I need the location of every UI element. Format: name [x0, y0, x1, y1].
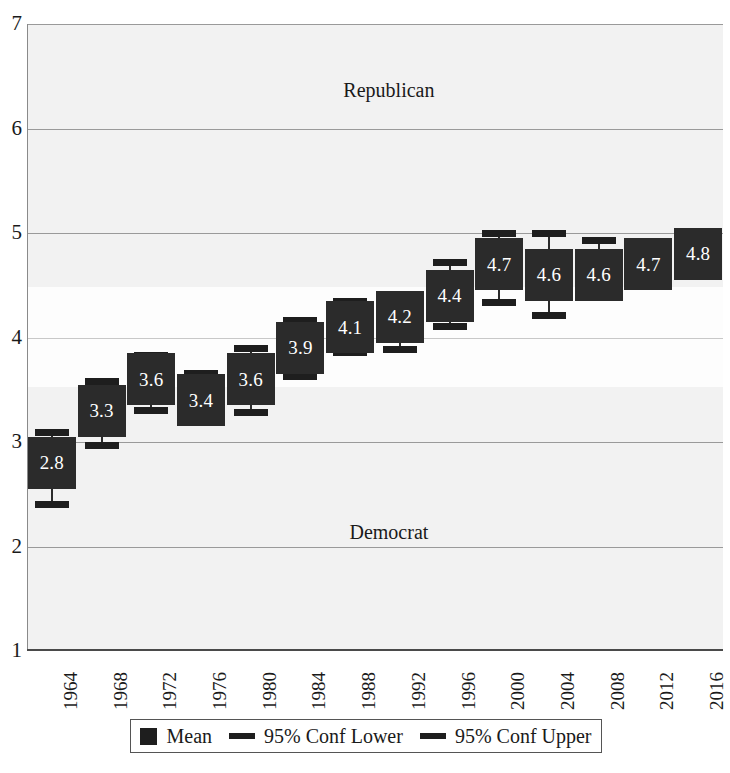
confidence-lower-cap [283, 373, 317, 380]
mean-marker: 3.6 [127, 353, 175, 405]
mean-marker: 3.6 [227, 353, 275, 405]
legend-entry: 95% Conf Lower [229, 726, 403, 746]
confidence-lower-cap [134, 407, 168, 414]
mean-value-label: 3.9 [288, 338, 312, 357]
confidence-lower-cap [234, 409, 268, 416]
mean-marker: 3.3 [78, 385, 126, 437]
mean-marker: 4.4 [426, 270, 474, 322]
x-axis-tick-label: 1976 [210, 672, 229, 710]
mean-value-label: 4.4 [437, 286, 461, 305]
gridline [27, 129, 723, 130]
confidence-lower-cap [532, 312, 566, 319]
confidence-upper-cap [532, 230, 566, 237]
x-axis-tick-label: 1972 [160, 672, 179, 710]
confidence-upper-cap [482, 230, 516, 237]
x-axis-tick-label: 2004 [558, 672, 577, 710]
y-axis-tick-label: 7 [0, 13, 22, 34]
x-axis-tick-label: 2012 [657, 672, 676, 710]
legend-entry: Mean [140, 726, 212, 746]
x-axis-tick-label: 2016 [707, 672, 726, 710]
confidence-lower-cap [433, 323, 467, 330]
gridline [27, 24, 723, 25]
x-axis-line [27, 649, 723, 651]
mean-marker: 4.7 [624, 238, 672, 290]
legend-interval-swatch-icon [420, 733, 446, 739]
legend-label: 95% Conf Lower [264, 726, 403, 746]
mean-marker: 4.2 [376, 291, 424, 343]
y-axis-tick-label: 2 [0, 536, 22, 557]
mean-value-label: 4.8 [686, 244, 710, 263]
legend-entry: 95% Conf Upper [420, 726, 592, 746]
mean-value-label: 4.6 [587, 265, 611, 284]
mean-marker: 2.8 [28, 437, 76, 489]
x-axis-tick-label: 1964 [61, 672, 80, 710]
mean-value-label: 3.6 [239, 370, 263, 389]
mean-value-label: 4.2 [388, 307, 412, 326]
gridline [27, 442, 723, 443]
confidence-lower-cap [482, 299, 516, 306]
confidence-lower-cap [85, 442, 119, 449]
mean-value-label: 4.7 [487, 255, 511, 274]
mean-value-label: 4.7 [636, 255, 660, 274]
chart-container: 1234567 2.83.33.63.43.63.94.14.24.44.74.… [0, 0, 730, 773]
x-axis-tick-label: 1968 [111, 672, 130, 710]
confidence-upper-cap [582, 237, 616, 244]
mean-value-label: 3.4 [189, 391, 213, 410]
mean-marker: 4.1 [326, 301, 374, 353]
x-axis-tick-label: 2008 [608, 672, 627, 710]
mean-marker: 4.8 [674, 228, 722, 280]
gridline [27, 233, 723, 234]
mean-value-label: 4.6 [537, 265, 561, 284]
mean-marker: 3.4 [177, 374, 225, 426]
mean-marker: 4.6 [525, 249, 573, 301]
plot-area: 2.83.33.63.43.63.94.14.24.44.74.64.64.74… [27, 24, 723, 651]
y-axis-tick-label: 6 [0, 118, 22, 139]
legend-label: Mean [166, 726, 212, 746]
confidence-lower-cap [383, 346, 417, 353]
x-axis-tick-label: 1992 [409, 672, 428, 710]
y-axis-tick-label: 1 [0, 640, 22, 661]
mean-value-label: 2.8 [40, 453, 64, 472]
gridline [27, 547, 723, 548]
plot-annotation-republican: Republican [343, 79, 434, 102]
x-axis-tick-labels: 1964196819721976198019841988199219962000… [27, 653, 723, 713]
x-axis-tick-label: 1988 [359, 672, 378, 710]
plot-annotation-democrat: Democrat [349, 521, 428, 544]
mean-value-label: 4.1 [338, 318, 362, 337]
legend-interval-swatch-icon [229, 733, 255, 739]
x-axis-tick-label: 1984 [309, 672, 328, 710]
mean-value-label: 3.3 [89, 401, 113, 420]
x-axis-tick-label: 1996 [459, 672, 478, 710]
legend-mean-swatch-icon [140, 728, 157, 745]
y-axis-tick-label: 3 [0, 431, 22, 452]
confidence-lower-cap [35, 501, 69, 508]
x-axis-tick-label: 1980 [260, 672, 279, 710]
x-axis-tick-label: 2000 [508, 672, 527, 710]
confidence-upper-cap [234, 345, 268, 352]
confidence-upper-cap [35, 429, 69, 436]
chart-legend: Mean95% Conf Lower95% Conf Upper [130, 719, 602, 753]
legend-label: 95% Conf Upper [455, 726, 592, 746]
mean-marker: 4.6 [575, 249, 623, 301]
y-axis-tick-label: 4 [0, 327, 22, 348]
mean-value-label: 3.6 [139, 370, 163, 389]
mean-marker: 3.9 [276, 322, 324, 374]
y-axis-line [27, 24, 28, 651]
y-axis-tick-label: 5 [0, 222, 22, 243]
confidence-upper-cap [433, 259, 467, 266]
mean-marker: 4.7 [475, 238, 523, 290]
